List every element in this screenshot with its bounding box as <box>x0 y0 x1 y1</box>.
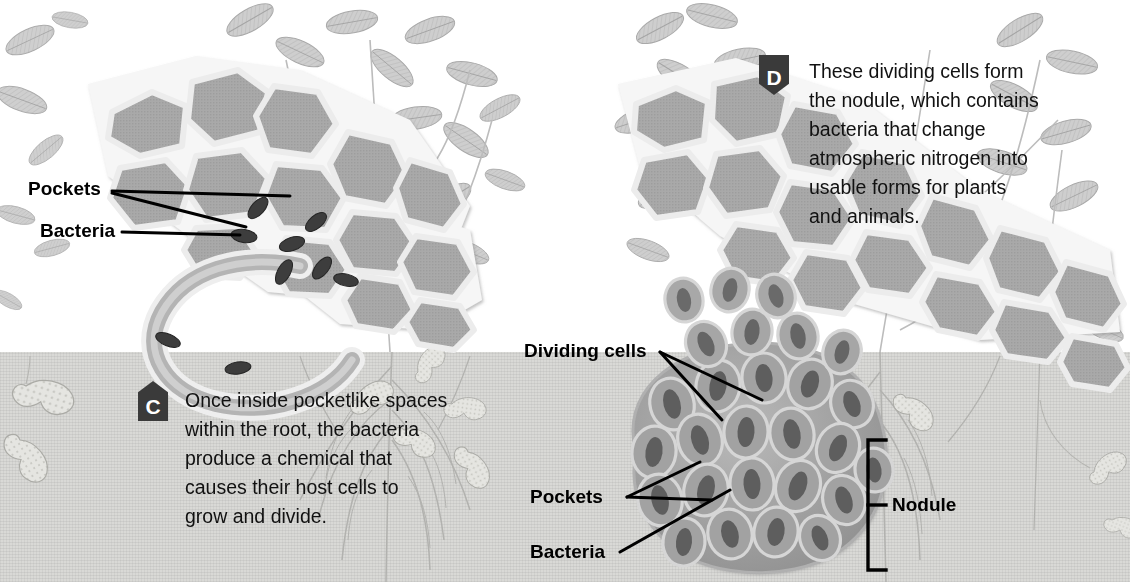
figure-canvas: C Once inside pocketlike spaces within t… <box>0 0 1130 582</box>
step-d-text: These dividing cells form the nodule, wh… <box>809 57 1099 231</box>
leader-dividing-1 <box>660 352 722 420</box>
leader-left-pockets-1 <box>112 191 290 196</box>
label-nodule: Nodule <box>892 494 956 516</box>
leader-dividing-2 <box>660 352 762 400</box>
nodule-bracket <box>868 440 886 570</box>
step-c-text: Once inside pocketlike spaces within the… <box>185 386 455 531</box>
leader-right-pockets-2 <box>627 497 712 500</box>
leader-right-pockets-1 <box>627 462 700 497</box>
label-right-pockets: Pockets <box>530 486 603 508</box>
leader-left-pockets-2 <box>112 193 246 227</box>
label-dividing-cells: Dividing cells <box>524 340 646 362</box>
label-left-bacteria: Bacteria <box>40 220 115 242</box>
label-right-bacteria: Bacteria <box>530 541 605 563</box>
label-left-pockets: Pockets <box>28 178 101 200</box>
leader-left-bacteria <box>122 232 240 235</box>
